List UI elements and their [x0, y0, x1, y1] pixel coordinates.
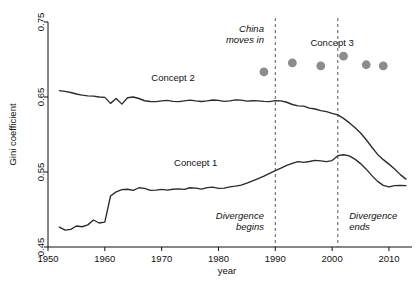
x-tick-label: 1970: [151, 253, 172, 264]
axis-layer: 0.450.550.650.75195019601970198019902000…: [7, 13, 412, 276]
annotation-divergence-begins-line1: Divergence: [216, 210, 264, 221]
concept3-data-point: [288, 58, 297, 67]
annotation-divergence-ends-line2: ends: [349, 221, 370, 232]
series-line-concept-2: [59, 91, 406, 180]
concept3-data-point: [379, 61, 388, 70]
concept3-data-point: [260, 67, 269, 76]
reference-line-layer: [275, 18, 338, 247]
y-tick-label: 0.65: [35, 88, 46, 107]
series-label-concept-1: Concept 1: [174, 157, 217, 168]
series-label-concept-3: Concept 3: [310, 37, 353, 48]
annotation-divergence-ends-line1: Divergence: [349, 210, 397, 221]
x-tick-label: 1950: [37, 253, 58, 264]
x-axis-title: year: [218, 265, 236, 276]
concept3-data-point: [362, 60, 371, 69]
y-tick-label: 0.55: [35, 163, 46, 182]
series-layer: [59, 52, 406, 230]
chart-figure: 0.450.550.650.75195019601970198019902000…: [0, 0, 419, 286]
x-tick-label: 1980: [208, 253, 229, 264]
gini-coefficient-line-chart: 0.450.550.650.75195019601970198019902000…: [0, 0, 419, 286]
annotation-layer: Chinamoves inDivergencebeginsDivergencee…: [216, 23, 397, 233]
series-label-concept-2: Concept 2: [151, 72, 194, 83]
concept3-data-point: [339, 52, 348, 61]
x-tick-label: 2000: [322, 253, 343, 264]
y-tick-label: 0.75: [35, 13, 46, 32]
annotation-china-moves-in-line1: China: [239, 23, 264, 34]
annotation-divergence-begins-line2: begins: [236, 221, 264, 232]
annotation-china-moves-in-line2: moves in: [226, 34, 264, 45]
x-tick-label: 1960: [94, 253, 115, 264]
concept3-data-point: [316, 61, 325, 70]
x-tick-label: 2010: [378, 253, 399, 264]
x-tick-label: 1990: [265, 253, 286, 264]
y-axis-title: Gini coefficient: [7, 103, 18, 165]
series-label-layer: Concept 2Concept 1Concept 3: [151, 37, 353, 168]
